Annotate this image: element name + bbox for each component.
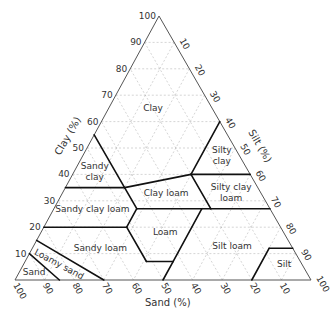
region-label: Sandy loam bbox=[74, 243, 127, 253]
grid-lines bbox=[29, 42, 295, 280]
silt-tick: 90 bbox=[299, 248, 314, 263]
soil-texture-triangle: ClaySandyclaySiltyclayClay loamSilty cla… bbox=[0, 0, 336, 320]
clay-tick: 90 bbox=[130, 37, 142, 47]
region-label: loam bbox=[220, 193, 242, 203]
silt-tick: 10 bbox=[177, 36, 192, 51]
region-label: Sand bbox=[23, 267, 46, 277]
sand-tick: 90 bbox=[41, 281, 56, 296]
region-boundaries bbox=[29, 122, 292, 280]
sand-tick: 70 bbox=[100, 281, 115, 296]
silt-tick: 100 bbox=[314, 274, 331, 294]
region-label: clay bbox=[86, 172, 105, 182]
region-label: Sandy clay loam bbox=[55, 204, 129, 214]
sand-tick: 40 bbox=[189, 281, 204, 296]
region-label: Clay loam bbox=[144, 188, 189, 198]
sand-tick: 80 bbox=[70, 281, 85, 296]
sand-tick: 60 bbox=[130, 281, 145, 296]
clay-tick: 80 bbox=[116, 64, 128, 74]
clay-tick: 70 bbox=[101, 90, 113, 100]
sand-tick: 30 bbox=[218, 281, 233, 296]
silt-tick: 20 bbox=[193, 63, 208, 78]
region-label: Silty clay bbox=[211, 182, 252, 192]
region-label: Silt loam bbox=[212, 241, 251, 251]
clay-tick: 60 bbox=[87, 117, 99, 127]
sand-axis-label: Sand (%) bbox=[145, 297, 191, 308]
silt-tick: 40 bbox=[223, 116, 238, 131]
region-label: Clay bbox=[143, 103, 163, 113]
sand-tick: 100 bbox=[11, 281, 28, 301]
region-label: Silt bbox=[277, 259, 292, 269]
clay-tick: 20 bbox=[29, 222, 41, 232]
silt-tick: 80 bbox=[284, 221, 299, 236]
silt-tick: 50 bbox=[238, 142, 253, 157]
sand-tick: 50 bbox=[159, 281, 174, 296]
region-label: Loam bbox=[153, 227, 178, 237]
clay-tick: 30 bbox=[44, 196, 56, 206]
region-label: Silty bbox=[212, 145, 232, 155]
silt-axis-label: Silt (%) bbox=[246, 128, 274, 165]
sand-tick: 20 bbox=[248, 281, 263, 296]
clay-tick: 100 bbox=[139, 11, 156, 21]
clay-tick: 10 bbox=[15, 249, 27, 259]
clay-tick: 50 bbox=[73, 143, 85, 153]
clay-tick: 40 bbox=[58, 169, 70, 179]
silt-tick: 30 bbox=[208, 89, 223, 104]
region-label: Sandy bbox=[81, 161, 110, 171]
sand-tick: 10 bbox=[278, 281, 293, 296]
silt-tick: 70 bbox=[269, 195, 284, 210]
silt-tick: 60 bbox=[253, 168, 268, 183]
region-label: clay bbox=[213, 156, 232, 166]
